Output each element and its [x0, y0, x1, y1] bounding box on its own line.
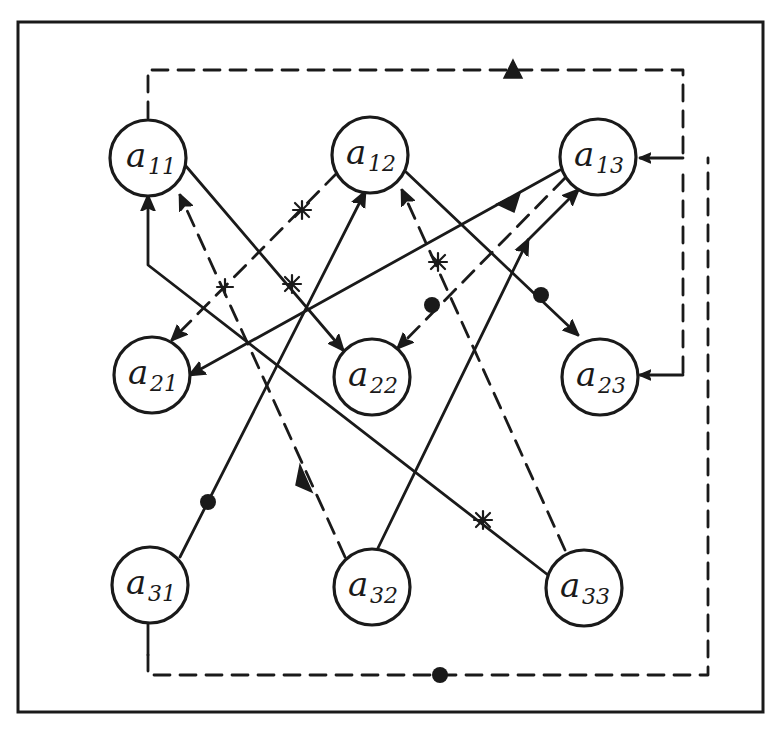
asterisk-marker-icon	[283, 275, 301, 293]
node-label-base: a	[576, 354, 596, 394]
mid-arrow-icon	[497, 193, 520, 212]
asterisk-marker-icon	[429, 253, 447, 271]
node-label-base: a	[126, 562, 146, 602]
node-label-base: a	[574, 134, 594, 174]
node-a22: a 22	[334, 339, 410, 415]
node-label-subscript: 12	[368, 151, 396, 176]
node-label-base: a	[348, 354, 368, 394]
node-label-subscript: 11	[148, 154, 176, 179]
node-label-subscript: 32	[370, 583, 398, 608]
node-label-base: a	[348, 564, 368, 604]
node-label-base: a	[128, 352, 148, 392]
node-label-subscript: 13	[596, 153, 624, 178]
node-a12: a 12	[332, 117, 408, 193]
asterisk-marker-icon	[293, 201, 311, 219]
node-a23: a 23	[562, 339, 638, 415]
dot-marker-icon	[424, 297, 440, 313]
node-label-subscript: 22	[369, 373, 398, 398]
node-label-subscript: 33	[582, 584, 610, 609]
dot-marker-icon	[533, 287, 549, 303]
node-label-subscript: 21	[149, 371, 178, 396]
node-a21: a 21	[114, 337, 190, 413]
node-a31: a 31	[112, 547, 188, 623]
node-label-base: a	[126, 135, 146, 175]
dot-marker-icon	[200, 494, 216, 510]
node-a13: a 13	[560, 119, 636, 195]
node-a33: a 33	[546, 550, 622, 626]
edge-a13-to-a22	[398, 178, 565, 348]
directed-graph-diagram: a 11 a 12 a 13 a 21 a 22 a 23 a 31 a 32 …	[0, 0, 780, 729]
edge-a31-bottom-loop	[148, 158, 708, 683]
dot-marker-icon	[432, 667, 448, 683]
node-label-subscript: 23	[597, 373, 626, 398]
node-label-base: a	[346, 132, 366, 172]
node-label-base: a	[560, 565, 580, 605]
node-label-subscript: 31	[148, 581, 176, 606]
node-a11: a 11	[110, 120, 186, 196]
asterisk-marker-icon	[474, 511, 492, 529]
node-a32: a 32	[334, 549, 410, 625]
